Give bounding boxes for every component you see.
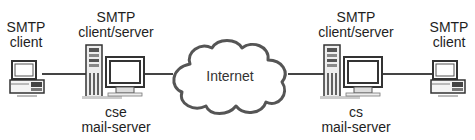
- left-client-label: SMTP client: [0, 20, 52, 50]
- left-client-pc-icon: [9, 60, 45, 100]
- right-client-pc-icon: [430, 60, 466, 100]
- left-server-top-line1: SMTP: [70, 10, 162, 25]
- right-server-bottom-label: cs mail-server: [310, 105, 402, 135]
- right-server-top-line1: SMTP: [310, 10, 402, 25]
- edge-right-server-to-right-client: [380, 73, 434, 75]
- edge-internet-to-right-server: [288, 73, 324, 75]
- left-server-top-line2: client/server: [70, 25, 162, 40]
- left-server-top-label: SMTP client/server: [70, 10, 162, 40]
- right-server-bottom-line1: cs: [310, 105, 402, 120]
- right-server-top-label: SMTP client/server: [310, 10, 402, 40]
- left-client-label-line2: client: [0, 35, 52, 50]
- right-server-workstation-icon: [320, 45, 384, 101]
- right-client-label: SMTP client: [423, 20, 475, 50]
- left-server-bottom-line2: mail-server: [70, 120, 162, 135]
- left-client-label-line1: SMTP: [0, 20, 52, 35]
- right-client-label-line1: SMTP: [423, 20, 475, 35]
- left-server-workstation-icon: [82, 45, 146, 101]
- right-server-top-line2: client/server: [310, 25, 402, 40]
- internet-label: Internet: [198, 68, 262, 84]
- right-server-bottom-line2: mail-server: [310, 120, 402, 135]
- right-client-label-line2: client: [423, 35, 475, 50]
- left-server-bottom-label: cse mail-server: [70, 105, 162, 135]
- left-server-bottom-line1: cse: [70, 105, 162, 120]
